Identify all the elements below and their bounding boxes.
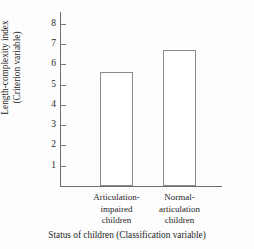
y-axis-title-line-1: Length-complexity index <box>0 20 10 114</box>
y-axis-tick-label-text: 1 <box>42 161 56 171</box>
y-axis-tick-label: 1 <box>40 161 56 171</box>
y-axis-title: Length-complexity index (Criterion varia… <box>0 3 23 133</box>
y-axis-tick-label: 5 <box>40 80 56 90</box>
y-axis-tick <box>61 145 66 146</box>
y-axis-tick <box>61 105 66 106</box>
y-axis-tick-label-text: 7 <box>42 39 56 49</box>
y-axis-tick-label: 7 <box>40 39 56 49</box>
y-axis-tick-label-text: 5 <box>42 80 56 90</box>
y-axis-tick <box>61 24 66 25</box>
y-axis-tick-label: 6 <box>40 59 56 69</box>
y-axis-tick-label: 3 <box>40 120 56 130</box>
y-axis-title-line-2: (Criterion variable) <box>11 3 23 133</box>
y-axis-tick <box>61 64 66 65</box>
x-axis-title: Status of children (Classification varia… <box>0 230 254 241</box>
y-axis-line <box>60 12 61 187</box>
bar-chart-figure: 87654321 Articulation-impairedchildrenNo… <box>0 0 254 249</box>
x-axis-line <box>60 186 222 187</box>
y-axis-tick-label: 4 <box>40 100 56 110</box>
y-axis-tick-label-text: 6 <box>42 59 56 69</box>
y-axis-tick-label: 2 <box>40 140 56 150</box>
y-axis-tick-label-text: 2 <box>42 140 56 150</box>
bar <box>100 72 133 186</box>
y-axis-tick-label-text: 3 <box>42 120 56 130</box>
y-axis-tick <box>61 125 66 126</box>
y-axis-tick <box>61 85 66 86</box>
x-axis-category-label-line: children <box>137 215 223 227</box>
y-axis-tick <box>61 166 66 167</box>
y-axis-tick-label: 8 <box>40 19 56 29</box>
x-axis-category-label-line: articulation <box>137 204 223 216</box>
y-axis-tick-label-text: 8 <box>42 19 56 29</box>
x-axis-category-label: Normal-articulationchildren <box>137 192 223 227</box>
y-axis-tick-label-text: 4 <box>42 100 56 110</box>
bar <box>163 50 196 186</box>
x-axis-category-label-line: Normal- <box>137 192 223 204</box>
y-axis-tick <box>61 44 66 45</box>
